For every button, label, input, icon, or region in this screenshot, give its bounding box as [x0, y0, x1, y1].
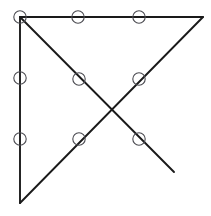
node-descending-lower: [133, 133, 145, 145]
geometric-figure-canvas: [0, 0, 211, 216]
descending-diagonal-line: [20, 17, 174, 172]
lines-group: [20, 17, 203, 203]
node-descending-upper: [73, 73, 85, 85]
